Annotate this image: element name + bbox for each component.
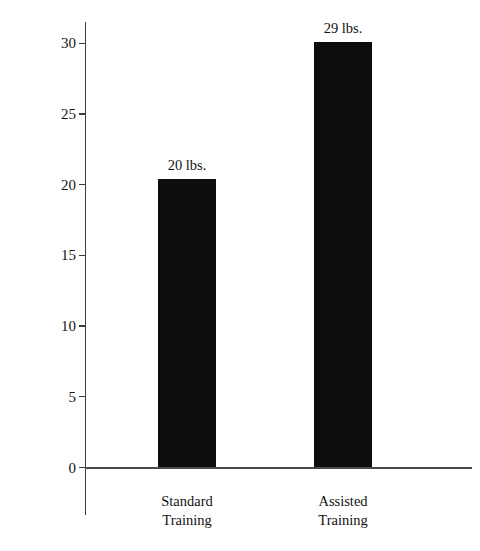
y-tick-label: 25 (16, 107, 76, 122)
y-tick-mark (79, 113, 85, 114)
y-tick-label: 5 (16, 390, 76, 405)
bar-value-label-1: 20 lbs. (128, 158, 246, 173)
y-tick-label: 10 (16, 319, 76, 334)
y-tick-mark (79, 467, 85, 468)
x-category-label-line: Assisted (264, 492, 422, 511)
y-tick-label: 15 (16, 248, 76, 263)
x-category-label-line: Training (264, 511, 422, 530)
y-axis-line (85, 22, 86, 515)
bar-1[interactable] (158, 179, 217, 468)
bar-chart: Weightload Increase (Pounds) 05101520253… (0, 0, 480, 551)
y-tick-label: 20 (16, 178, 76, 193)
y-tick-mark (79, 325, 85, 326)
y-tick-mark (79, 184, 85, 185)
x-category-label-line: Training (108, 511, 266, 530)
x-axis-line (85, 467, 472, 469)
y-tick-label: 30 (16, 36, 76, 51)
x-category-label-2: AssistedTraining (264, 492, 422, 529)
y-tick-mark (79, 43, 85, 44)
x-category-label-line: Standard (108, 492, 266, 511)
y-tick-mark (79, 396, 85, 397)
y-tick-label: 0 (16, 461, 76, 476)
y-tick-mark (79, 255, 85, 256)
bar-value-label-2: 29 lbs. (284, 21, 402, 36)
bar-2[interactable] (314, 42, 373, 468)
x-category-label-1: StandardTraining (108, 492, 266, 529)
